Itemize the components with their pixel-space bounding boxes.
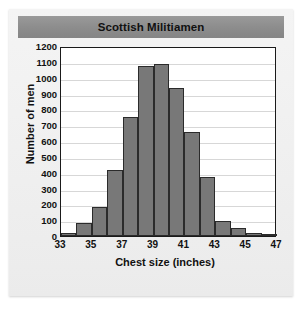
plot-area: [60, 47, 276, 237]
bar: [123, 117, 138, 236]
x-tick-label: 35: [79, 239, 103, 251]
figure-canvas: Scottish Militiamen 01002003004005006007…: [0, 0, 302, 313]
bar: [61, 233, 76, 236]
x-axis-tick-labels: 3335373941434547: [60, 239, 276, 253]
x-tick-label: 47: [264, 239, 288, 251]
x-tick-label: 41: [171, 239, 195, 251]
bar-series: [61, 48, 275, 236]
x-tick-label: 39: [141, 239, 165, 251]
page-title: Scottish Militiamen: [98, 21, 205, 33]
x-tick-label: 43: [202, 239, 226, 251]
bar: [200, 177, 215, 236]
y-tick-label: 100: [23, 216, 57, 226]
x-tick-label: 45: [233, 239, 257, 251]
bar: [154, 64, 169, 236]
bar: [138, 66, 153, 236]
y-tick-label: 200: [23, 200, 57, 210]
bar: [262, 234, 277, 236]
bar: [246, 233, 261, 236]
bar: [169, 88, 184, 236]
chart-title-banner: Scottish Militiamen: [18, 16, 284, 38]
x-axis-title: Chest size (inches): [40, 256, 290, 268]
bar: [184, 132, 199, 237]
x-tick-label: 37: [110, 239, 134, 251]
x-tick-label: 33: [48, 239, 72, 251]
bar: [76, 223, 91, 236]
bar: [92, 207, 107, 236]
bar: [107, 170, 122, 237]
bar: [231, 228, 246, 236]
y-axis-title: Number of men: [24, 49, 36, 199]
bar: [215, 221, 230, 236]
